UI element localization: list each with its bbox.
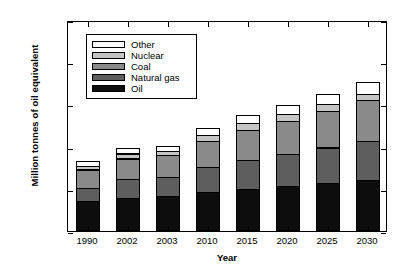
y-tick-mark [381, 106, 386, 107]
bar-segment-coal[interactable] [76, 170, 100, 189]
bar-stack[interactable] [356, 82, 380, 231]
y-tick-mark [68, 64, 73, 65]
x-tick-mark [288, 226, 289, 231]
legend-swatch-icon [92, 52, 125, 59]
y-tick-mark [68, 191, 73, 192]
bar-segment-natural-gas[interactable] [196, 167, 220, 193]
bar-segment-coal[interactable] [316, 111, 340, 149]
bar-segment-coal[interactable] [236, 130, 260, 161]
bar-stack[interactable] [156, 146, 180, 231]
bar-stack[interactable] [316, 94, 340, 231]
bar-segment-natural-gas[interactable] [236, 160, 260, 190]
x-tick-mark [208, 226, 209, 231]
bar-segment-natural-gas[interactable] [116, 179, 140, 198]
bar-segment-coal[interactable] [276, 121, 300, 155]
legend-swatch-icon [92, 41, 125, 48]
x-tick-mark [128, 226, 129, 231]
bar-segment-coal[interactable] [196, 141, 220, 168]
plot-area: OtherNuclearCoalNatural gasOil [67, 21, 387, 232]
x-tick-label: 2030 [344, 235, 390, 246]
bar-segment-coal[interactable] [116, 159, 140, 181]
legend-label: Natural gas [131, 72, 180, 83]
legend-swatch-icon [92, 63, 125, 70]
bar-segment-natural-gas[interactable] [276, 154, 300, 187]
legend-label: Other [131, 39, 155, 50]
y-tick-mark [68, 22, 73, 23]
legend-item[interactable]: Other [92, 39, 191, 50]
bar-stack[interactable] [196, 128, 220, 231]
x-tick-mark [88, 22, 89, 27]
x-tick-mark [88, 226, 89, 231]
chart-legend: OtherNuclearCoalNatural gasOil [86, 34, 197, 99]
x-tick-mark [248, 22, 249, 27]
x-tick-mark [168, 226, 169, 231]
bar-segment-natural-gas[interactable] [356, 141, 380, 181]
y-tick-mark [381, 149, 386, 150]
legend-item[interactable]: Natural gas [92, 72, 191, 83]
y-tick-mark [381, 64, 386, 65]
bar-segment-natural-gas[interactable] [156, 177, 180, 197]
stacked-bar-chart-figure: Million tonnes of oil equivalent OtherNu… [0, 0, 403, 273]
x-tick-mark [288, 22, 289, 27]
y-tick-mark [68, 106, 73, 107]
bar-stack[interactable] [236, 115, 260, 231]
y-tick-mark [68, 233, 73, 234]
legend-item[interactable]: Oil [92, 83, 191, 94]
x-tick-mark [328, 226, 329, 231]
legend-label: Oil [131, 83, 143, 94]
bar-stack[interactable] [276, 105, 300, 231]
legend-item[interactable]: Coal [92, 61, 191, 72]
x-tick-mark [128, 22, 129, 27]
legend-item[interactable]: Nuclear [92, 50, 191, 61]
x-tick-mark [328, 22, 329, 27]
bar-segment-oil[interactable] [276, 186, 300, 231]
x-tick-mark [208, 22, 209, 27]
bar-segment-coal[interactable] [156, 155, 180, 178]
legend-label: Nuclear [131, 50, 164, 61]
x-tick-mark [248, 226, 249, 231]
bar-segment-other[interactable] [356, 82, 380, 96]
y-tick-mark [68, 149, 73, 150]
bar-segment-natural-gas[interactable] [76, 188, 100, 202]
y-tick-mark [381, 233, 386, 234]
x-tick-mark [168, 22, 169, 27]
y-tick-mark [381, 22, 386, 23]
bar-segment-natural-gas[interactable] [316, 148, 340, 185]
legend-label: Coal [131, 61, 151, 72]
bar-segment-oil[interactable] [316, 183, 340, 231]
legend-swatch-icon [92, 85, 125, 92]
y-tick-mark [381, 191, 386, 192]
x-axis-title: Year [67, 252, 387, 263]
bar-stack[interactable] [76, 161, 100, 231]
bar-segment-oil[interactable] [236, 189, 260, 231]
x-tick-mark [368, 22, 369, 27]
bar-segment-oil[interactable] [356, 180, 380, 231]
bar-segment-coal[interactable] [356, 100, 380, 142]
y-axis-title: Million tonnes of oil equivalent [29, 16, 40, 216]
bar-stack[interactable] [116, 148, 140, 231]
legend-swatch-icon [92, 74, 125, 81]
x-tick-mark [368, 226, 369, 231]
